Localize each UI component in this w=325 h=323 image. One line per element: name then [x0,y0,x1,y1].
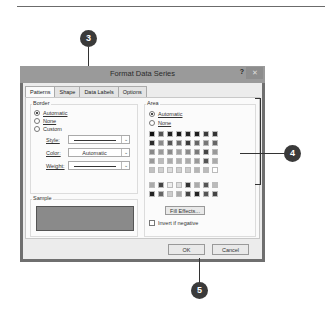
color-swatch[interactable] [167,191,173,197]
color-swatch[interactable] [194,131,200,137]
color-swatch[interactable] [149,167,155,173]
radio-label: Custom [43,126,62,132]
color-palette-extra [149,182,218,197]
color-swatch[interactable] [212,191,218,197]
color-swatch[interactable] [149,182,155,188]
color-swatch[interactable] [167,140,173,146]
color-swatch[interactable] [194,191,200,197]
color-swatch[interactable] [212,140,218,146]
border-custom-radio[interactable]: Custom [34,126,62,132]
color-swatch[interactable] [185,131,191,137]
cancel-button[interactable]: Cancel [212,244,249,255]
callout-4-bracket-top [255,98,261,99]
color-swatch[interactable] [167,149,173,155]
color-swatch[interactable] [203,191,209,197]
radio-label: None [158,120,171,126]
color-swatch[interactable] [158,149,164,155]
line-weight-preview [74,166,116,167]
radio-label: Automatic [158,111,182,117]
callout-4-bracket-bottom [255,184,261,185]
color-swatch[interactable] [158,167,164,173]
color-swatch[interactable] [149,191,155,197]
color-swatch[interactable] [176,167,182,173]
color-swatch[interactable] [176,131,182,137]
radio-indicator [34,126,40,132]
color-swatch[interactable] [158,140,164,146]
radio-indicator [34,118,40,124]
color-swatch[interactable] [194,182,200,188]
help-button[interactable]: ? [238,68,246,80]
color-swatch[interactable] [176,158,182,164]
page-rule [17,6,325,7]
color-swatch[interactable] [176,140,182,146]
checkbox-label: Invert if negative [158,220,198,226]
color-swatch[interactable] [212,167,218,173]
callout-4-bracket [260,98,261,184]
callout-3: 3 [80,30,97,47]
color-swatch[interactable] [167,158,173,164]
color-swatch[interactable] [212,158,218,164]
color-swatch[interactable] [158,191,164,197]
color-swatch[interactable] [149,149,155,155]
chevron-down-icon: ⌄ [121,149,129,156]
color-swatch[interactable] [194,149,200,155]
color-swatch[interactable] [212,182,218,188]
callout-5-line [199,258,200,283]
color-swatch[interactable] [167,182,173,188]
color-swatch[interactable] [185,191,191,197]
color-swatch[interactable] [176,182,182,188]
color-swatch[interactable] [176,149,182,155]
color-swatch[interactable] [185,167,191,173]
weight-label: Weight: [46,163,65,169]
color-swatch[interactable] [158,182,164,188]
area-group-label: Area [146,100,160,106]
border-automatic-radio[interactable]: Automatic [34,110,67,116]
color-swatch[interactable] [203,131,209,137]
weight-select[interactable]: ⌄ [68,161,130,170]
color-select[interactable]: Automatic ⌄ [68,148,130,157]
color-swatch[interactable] [194,158,200,164]
tab-shape[interactable]: Shape [54,86,80,97]
tab-options[interactable]: Options [118,86,147,97]
radio-indicator [34,110,40,116]
color-swatch[interactable] [203,158,209,164]
chevron-down-icon: ⌄ [121,136,129,143]
color-swatch[interactable] [185,149,191,155]
color-swatch[interactable] [149,131,155,137]
color-swatch[interactable] [212,149,218,155]
area-automatic-radio[interactable]: Automatic [149,111,182,117]
color-swatch[interactable] [158,158,164,164]
title-bar: Format Data Series ? ✕ [20,66,265,83]
style-select[interactable]: ⌄ [68,135,130,144]
invert-if-negative-checkbox[interactable]: Invert if negative [149,220,198,226]
tab-data-labels[interactable]: Data Labels [79,86,118,97]
chevron-down-icon: ⌄ [121,162,129,169]
color-swatch[interactable] [194,140,200,146]
area-none-radio[interactable]: None [149,120,171,126]
color-swatch[interactable] [203,182,209,188]
color-swatch[interactable] [149,140,155,146]
color-swatch[interactable] [149,158,155,164]
line-style-preview [74,140,116,141]
color-swatch[interactable] [185,182,191,188]
color-swatch[interactable] [158,131,164,137]
close-button[interactable]: ✕ [246,67,263,79]
color-swatch[interactable] [203,149,209,155]
color-swatch[interactable] [194,167,200,173]
color-swatch[interactable] [185,158,191,164]
radio-label: None [43,118,56,124]
callout-4-line [240,153,285,154]
color-swatch[interactable] [185,140,191,146]
color-swatch[interactable] [212,131,218,137]
border-none-radio[interactable]: None [34,118,56,124]
color-swatch[interactable] [167,131,173,137]
dialog-body: Patterns Shape Data Labels Options Borde… [23,83,262,259]
ok-button[interactable]: OK [168,244,205,255]
color-swatch[interactable] [167,167,173,173]
color-swatch[interactable] [176,191,182,197]
color-swatch[interactable] [203,140,209,146]
fill-effects-button[interactable]: Fill Effects... [165,206,205,215]
color-swatch[interactable] [203,167,209,173]
callout-4: 4 [284,145,301,162]
dialog-title: Format Data Series [20,69,265,78]
